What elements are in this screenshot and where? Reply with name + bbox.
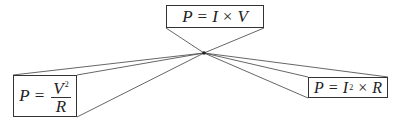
times-sign: × [358,79,367,97]
exponent: 2 [349,83,353,92]
equals-sign: = [329,79,338,97]
symbol-i: I [212,7,218,27]
fraction-denominator: R [56,98,66,116]
exponent: 2 [65,80,69,89]
formula-box-power-iv: P = I × V [166,5,264,28]
fraction: V2 R [51,76,70,116]
times-sign: × [223,7,233,27]
center-node [202,51,206,55]
symbol-i: I [343,79,348,97]
fraction-numerator: V2 [51,76,70,98]
symbol-p: P [19,86,29,106]
formula-box-power-v2r: P = V2 R [13,75,77,117]
symbol-v: V [53,79,63,98]
symbol-v: V [237,7,247,27]
formula-box-power-i2r: P = I2 × R [308,77,388,98]
symbol-p: P [182,7,192,27]
equals-sign: = [198,7,208,27]
equals-sign: = [35,86,45,106]
symbol-r: R [372,79,382,97]
symbol-p: P [314,79,324,97]
